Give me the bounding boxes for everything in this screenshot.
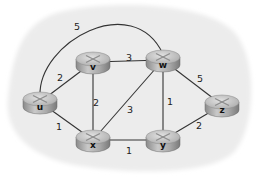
edge-cost-x-y: 1 [126,145,132,156]
router-label-x: x [90,140,96,150]
edge-cost-u-w: 5 [74,21,80,32]
router-label-v: v [90,62,96,72]
edge-cost-u-v: 2 [57,72,63,83]
router-u: u [23,92,57,114]
router-w: w [146,50,180,72]
router-v: v [76,52,110,74]
edge-cost-w-z: 5 [197,73,203,84]
edge-cost-u-x: 1 [56,121,62,132]
edge-cost-v-w: 3 [126,52,132,63]
router-label-y: y [160,140,166,150]
edge-cost-w-y: 1 [167,96,173,107]
router-label-z: z [219,105,224,115]
network-diagram: 5232315112 uvwzxy [0,0,257,177]
edge-cost-y-z: 2 [196,120,202,131]
router-y: y [146,130,180,152]
edge-cost-v-x: 2 [93,97,99,108]
router-label-u: u [37,102,43,112]
edge-cost-w-x: 3 [127,104,133,115]
router-x: x [76,130,110,152]
router-z: z [205,95,239,117]
router-label-w: w [159,60,167,70]
